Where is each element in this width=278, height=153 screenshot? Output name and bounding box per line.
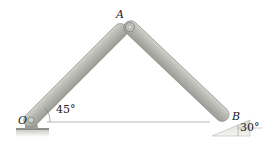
label-B: B (232, 111, 240, 122)
pin-O (28, 117, 34, 123)
label-A: A (116, 9, 124, 20)
angle-label-O: 45° (56, 104, 76, 115)
linkage-diagram: A O B 45° 30° (0, 0, 278, 153)
angle-label-B: 30° (240, 122, 260, 133)
label-O: O (18, 115, 27, 126)
diagram-graphics (0, 0, 278, 153)
link-OA (21, 21, 131, 131)
link-AB (121, 18, 232, 125)
